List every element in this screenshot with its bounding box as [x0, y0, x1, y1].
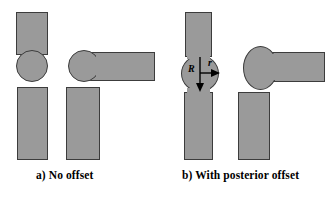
panel-b-caption: b) With posterior offset: [182, 169, 299, 181]
panel-b-col2-joint-patch: [271, 54, 280, 80]
figure-canvas: a) No offset R r b) With posterior offse…: [0, 0, 336, 205]
panel-b-col2-lower-vertical-bar: [238, 92, 270, 160]
radius-R-label: R: [188, 63, 195, 74]
radius-r-label: r: [208, 57, 212, 68]
